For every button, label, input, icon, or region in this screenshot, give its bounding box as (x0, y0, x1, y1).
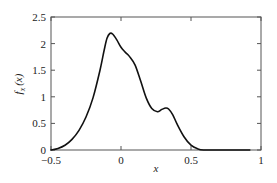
plot-area (51, 17, 261, 150)
density-chart: 00.511.522.5 −0.500.51 x fx(x) (0, 0, 277, 183)
y-tick-label: 2.5 (32, 11, 46, 23)
svg-text:fx(x): fx(x) (12, 73, 27, 94)
x-tick-label: 0 (118, 154, 124, 166)
x-tick-label: −0.5 (41, 154, 61, 166)
x-axis-label: x (153, 162, 159, 174)
x-tick-label: 1 (258, 154, 264, 166)
y-tick-label: 1 (41, 91, 47, 103)
y-tick-label: 1.5 (32, 64, 46, 76)
y-tick-label: 2 (41, 38, 47, 50)
y-label-sub: x (18, 87, 27, 92)
y-axis-label: fx(x) (12, 73, 27, 94)
y-tick-label: 0.5 (32, 117, 46, 129)
y-label-arg: (x) (12, 73, 25, 86)
x-tick-label: 0.5 (184, 154, 198, 166)
